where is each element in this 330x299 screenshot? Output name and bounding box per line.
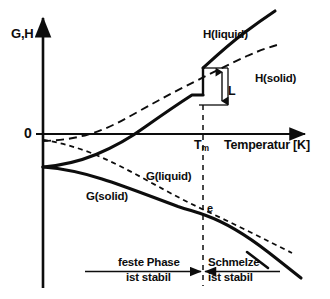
x-axis-label: Temperatur [K] — [224, 139, 310, 152]
g-solid-label: G(solid) — [86, 190, 128, 202]
curve-g-liquid — [43, 140, 292, 253]
thermodynamics-diagram: G,H 0 Temperatur [K] Tm H(liquid) H(soli… — [0, 0, 330, 299]
curve-h-liquid — [43, 95, 203, 167]
solid-phase-label-line1: feste Phase — [118, 256, 180, 268]
tm-label: Tm — [194, 139, 209, 152]
melt-phase-label-line2: ist stabil — [208, 271, 253, 283]
h-liquid-label: H(liquid) — [203, 28, 248, 40]
latent-heat-label: L — [228, 85, 235, 98]
origin-label: 0 — [24, 126, 32, 141]
melt-phase-label-line1: Schmelze — [208, 256, 259, 268]
equilibrium-point-label: e — [207, 203, 213, 215]
y-axis-label: G,H — [11, 27, 34, 41]
tm-subscript: m — [201, 143, 208, 153]
h-solid-label: H(solid) — [255, 72, 296, 84]
g-liquid-label: G(liquid) — [146, 170, 191, 182]
curve-h-solid — [43, 45, 277, 141]
solid-phase-label-line2: ist stabil — [126, 271, 171, 283]
